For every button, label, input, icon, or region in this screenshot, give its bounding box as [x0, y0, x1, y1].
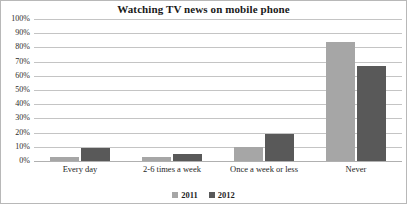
chart-legend: 20112012 [1, 191, 406, 199]
y-axis-tick-label: 70% [1, 58, 30, 66]
bar-group [34, 19, 126, 161]
bar-2011 [50, 157, 79, 161]
y-axis-tick-label: 90% [1, 29, 30, 37]
chart-title: Watching TV news on mobile phone [1, 3, 406, 15]
legend-label: 2012 [218, 191, 235, 199]
y-axis-tick-label: 50% [1, 86, 30, 94]
x-axis-category-label: Never [310, 164, 402, 174]
bar-2011 [234, 147, 263, 161]
y-axis-tick-label: 0% [1, 157, 30, 165]
y-axis: 0%10%20%30%40%50%60%70%80%90%100% [1, 19, 30, 161]
bar-group [310, 19, 402, 161]
y-axis-tick-label: 30% [1, 114, 30, 122]
y-axis-tick-label: 80% [1, 43, 30, 51]
gridline-0pct [34, 161, 402, 162]
plot-area [34, 19, 402, 161]
x-axis-category-label: Every day [34, 164, 126, 174]
x-axis-category-label: Once a week or less [218, 164, 310, 174]
legend-entry-2012[interactable]: 2012 [209, 191, 235, 199]
legend-entry-2011[interactable]: 2011 [172, 191, 198, 199]
bar-2012 [173, 154, 202, 161]
chart-container: Watching TV news on mobile phone 0%10%20… [0, 0, 407, 204]
bars-layer [34, 19, 402, 161]
bar-group [218, 19, 310, 161]
bar-2011 [326, 42, 355, 161]
legend-swatch-icon [209, 192, 215, 198]
x-axis-category-label: 2-6 times a week [126, 164, 218, 174]
x-axis: Every day2-6 times a weekOnce a week or … [34, 164, 402, 178]
bar-2012 [265, 134, 294, 161]
bar-group [126, 19, 218, 161]
legend-label: 2011 [181, 191, 198, 199]
y-axis-tick-label: 60% [1, 72, 30, 80]
y-axis-tick-label: 40% [1, 100, 30, 108]
bar-2012 [357, 66, 386, 161]
legend-swatch-icon [172, 192, 178, 198]
bar-2011 [142, 157, 171, 161]
y-axis-tick-label: 10% [1, 143, 30, 151]
y-axis-tick-label: 20% [1, 129, 30, 137]
bar-2012 [81, 148, 110, 161]
y-axis-tick-label: 100% [1, 15, 30, 23]
